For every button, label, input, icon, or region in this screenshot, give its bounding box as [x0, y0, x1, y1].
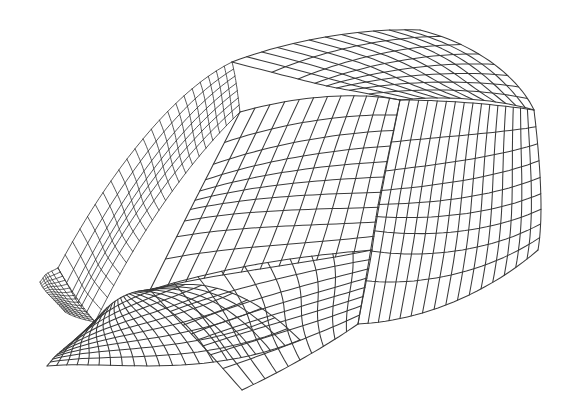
background — [0, 0, 572, 414]
wireframe-surface — [0, 0, 572, 414]
